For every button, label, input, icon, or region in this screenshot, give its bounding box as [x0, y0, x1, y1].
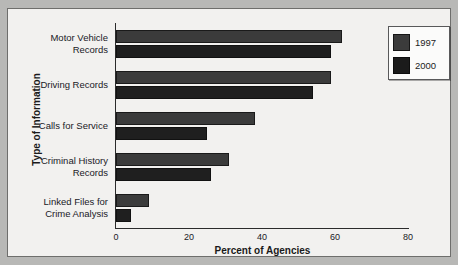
bar-2000-5 [116, 209, 131, 222]
category-label-line: Driving Records [8, 79, 108, 91]
legend-swatch-1997-icon [393, 34, 410, 51]
category-label-5: Linked Files forCrime Analysis [8, 196, 108, 219]
bar-2000-2 [116, 86, 313, 99]
category-label-line: Records [8, 167, 108, 179]
bar-1997-2 [116, 71, 331, 84]
x-tick-60: 60 [330, 232, 340, 242]
legend-swatch-2000-icon [393, 57, 410, 74]
x-tick-0: 0 [113, 232, 118, 242]
legend-item-2000: 2000 [393, 55, 445, 75]
category-label-line: Calls for Service [8, 120, 108, 132]
chart-legend: 1997 2000 [388, 26, 450, 80]
x-tick-80: 80 [403, 232, 413, 242]
category-label-line: Linked Files for [8, 196, 108, 208]
bar-2000-1 [116, 45, 331, 58]
category-label-4: Criminal HistoryRecords [8, 155, 108, 178]
plot-area [116, 23, 408, 228]
category-label-1: Motor VehicleRecords [8, 32, 108, 55]
x-axis-line [116, 228, 409, 229]
bar-1997-3 [116, 112, 255, 125]
legend-label-2000: 2000 [415, 60, 436, 71]
category-label-line: Records [8, 44, 108, 56]
legend-item-1997: 1997 [393, 32, 445, 52]
category-label-2: Driving Records [8, 79, 108, 91]
bar-1997-4 [116, 153, 229, 166]
x-tick-20: 20 [184, 232, 194, 242]
x-tick-40: 40 [257, 232, 267, 242]
category-label-line: Criminal History [8, 155, 108, 167]
bar-2000-4 [116, 168, 211, 181]
category-label-line: Motor Vehicle [8, 32, 108, 44]
category-label-line: Crime Analysis [8, 208, 108, 220]
chart-panel: Type of Information Motor VehicleRecords… [7, 8, 451, 257]
bar-1997-1 [116, 30, 342, 43]
figure-outer-frame: Type of Information Motor VehicleRecords… [0, 0, 458, 265]
category-label-3: Calls for Service [8, 120, 108, 132]
x-axis-title: Percent of Agencies [116, 245, 409, 256]
bar-1997-5 [116, 194, 149, 207]
bar-2000-3 [116, 127, 207, 140]
legend-label-1997: 1997 [415, 37, 436, 48]
